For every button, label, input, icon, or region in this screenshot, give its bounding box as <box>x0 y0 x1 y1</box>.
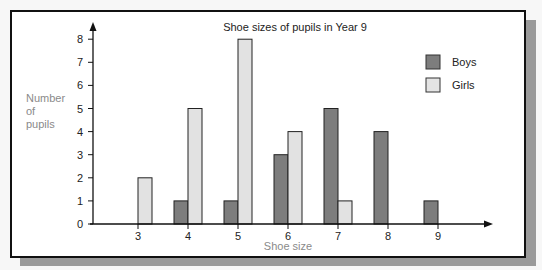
bar-boys-8 <box>374 132 388 224</box>
legend-item-girls: Girls <box>426 78 475 92</box>
y-tick-label: 1 <box>77 195 83 207</box>
y-axis: 012345678 <box>77 22 97 230</box>
y-tick-label: 0 <box>77 218 83 230</box>
bar-boys-5 <box>224 201 238 224</box>
x-tick-label: 7 <box>335 230 341 242</box>
y-tick-label: 2 <box>77 172 83 184</box>
y-tick-label: 8 <box>77 33 83 45</box>
x-tick-label: 9 <box>435 230 441 242</box>
bar-boys-7 <box>324 109 338 225</box>
y-axis-label: Number of pupils <box>26 92 65 130</box>
x-axis: 3456789 <box>90 221 493 243</box>
y-tick-label: 7 <box>77 56 83 68</box>
x-tick-label: 4 <box>185 230 191 242</box>
legend-swatch-girls <box>426 78 440 92</box>
bar-boys-9 <box>424 201 438 224</box>
y-label-line-3: pupils <box>26 118 55 130</box>
y-axis-arrow-icon <box>90 22 97 31</box>
y-tick-label: 6 <box>77 79 83 91</box>
x-axis-label: Shoe size <box>264 240 312 252</box>
x-axis-arrow-icon <box>484 221 493 228</box>
legend-item-boys: Boys <box>426 55 477 69</box>
chart-title: Shoe sizes of pupils in Year 9 <box>223 21 367 33</box>
x-tick-label: 5 <box>235 230 241 242</box>
y-label-line-1: Number <box>26 92 65 104</box>
x-tick-label: 3 <box>135 230 141 242</box>
x-tick-label: 8 <box>385 230 391 242</box>
bar-girls-7 <box>338 201 352 224</box>
y-label-line-2: of <box>26 105 36 117</box>
bar-girls-3 <box>138 178 152 224</box>
bar-girls-6 <box>288 132 302 224</box>
bar-boys-4 <box>174 201 188 224</box>
bars-group <box>138 39 438 224</box>
bar-boys-6 <box>274 155 288 224</box>
bar-girls-5 <box>238 39 252 224</box>
bar-chart: Shoe sizes of pupils in Year 9 Number of… <box>0 0 542 270</box>
y-tick-label: 5 <box>77 103 83 115</box>
legend: Boys Girls <box>426 55 477 92</box>
legend-label-girls: Girls <box>452 79 475 91</box>
y-tick-label: 4 <box>77 126 83 138</box>
legend-label-boys: Boys <box>452 56 477 68</box>
bar-girls-4 <box>188 109 202 225</box>
y-tick-label: 3 <box>77 149 83 161</box>
legend-swatch-boys <box>426 55 440 69</box>
